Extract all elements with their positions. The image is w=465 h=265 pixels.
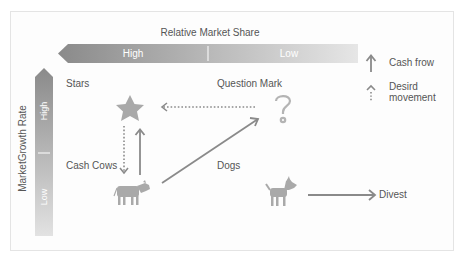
- divest-label: Divest: [379, 189, 407, 200]
- dog-icon: [266, 176, 297, 206]
- arrow-stars-to-cashcows: [120, 126, 128, 173]
- legend-desired-movement-icon: [367, 86, 375, 101]
- legend-cash-flow-icon: [367, 56, 376, 73]
- arrow-cashcows-to-stars: [136, 130, 145, 176]
- star-icon: [116, 95, 144, 121]
- question-mark-icon: [276, 96, 290, 122]
- legend-desired-movement-label-line2: movement: [389, 92, 436, 103]
- matrix-graphics: [0, 0, 465, 265]
- arrow-question-to-stars: [162, 103, 255, 111]
- legend-desired-movement-label-line1: Desird: [389, 81, 418, 92]
- cow-icon: [114, 180, 150, 205]
- legend-cash-flow-label: Cash frow: [389, 57, 434, 68]
- arrow-cashcows-to-question: [162, 118, 258, 183]
- arrow-dogs-to-divest: [308, 190, 375, 200]
